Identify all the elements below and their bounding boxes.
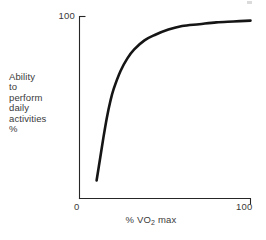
x-axis-tick-label-100: 100 — [236, 201, 260, 212]
y-axis-title-line: activities — [9, 114, 71, 124]
x-axis-tick-label-0: 0 — [74, 201, 86, 212]
x-axis-title-suffix: max — [155, 214, 176, 225]
x-axis-title-prefix: % VO — [125, 214, 151, 225]
y-axis-title: Ability to perform daily activities % — [9, 72, 71, 134]
scan-artifact-mark — [247, 1, 252, 4]
chart-screenshot: 100 0 100 Ability to perform daily activ… — [0, 0, 266, 240]
x-axis-title: % VO2 max — [96, 214, 206, 225]
y-axis-title-line: Ability — [9, 72, 71, 82]
y-axis-title-line: % — [9, 124, 71, 134]
y-axis-tick-label-100: 100 — [48, 10, 75, 21]
x-axis-title-subscript: 2 — [151, 219, 155, 226]
data-curve-ability-vs-vo2max — [97, 21, 251, 181]
